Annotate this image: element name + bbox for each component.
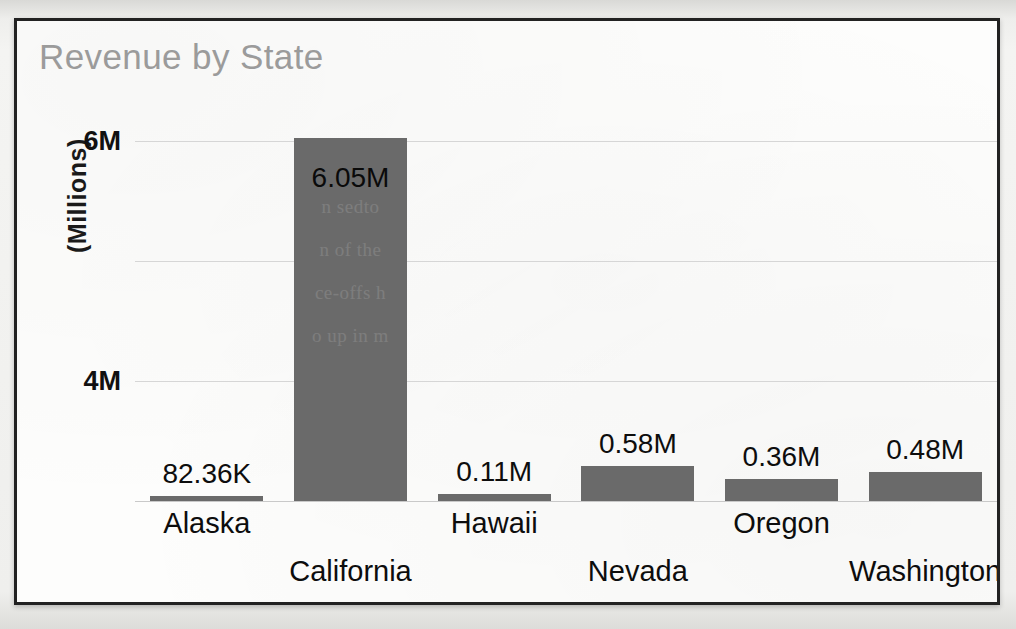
bleed-through-text: o up in m <box>294 325 407 347</box>
x-axis-label-oregon: Oregon <box>733 507 830 540</box>
x-axis-labels-group: AlaskaCaliforniaHawaiiNevadaOregonWashin… <box>135 503 997 603</box>
bar-washington[interactable] <box>869 472 982 501</box>
bar-value-label: 0.11M <box>456 456 532 488</box>
bleed-through-text: n of the <box>294 239 407 261</box>
scanned-chart-page: Revenue by State (Millions) 0M2M4M6M 82.… <box>0 0 1016 629</box>
bar-alaska[interactable] <box>150 496 263 501</box>
chart-frame: Revenue by State (Millions) 0M2M4M6M 82.… <box>14 18 1000 605</box>
gridline-0M: 0M <box>135 501 997 502</box>
bar-value-label: 82.36K <box>162 458 251 490</box>
bar-value-label: 6.05M <box>312 162 390 194</box>
bar-slot: 82.36K <box>150 141 263 501</box>
bar-hawaii[interactable] <box>438 494 551 501</box>
x-axis-label-alaska: Alaska <box>163 507 250 540</box>
bar-value-label: 0.48M <box>886 434 964 466</box>
bar-slot: n sedton of thece-offs ho up in m6.05M <box>294 141 407 501</box>
bar-value-label: 0.58M <box>599 428 677 460</box>
bar-oregon[interactable] <box>725 479 838 501</box>
plot-area: 0M2M4M6M 82.36Kn sedton of thece-offs ho… <box>135 141 997 501</box>
chart-title: Revenue by State <box>39 37 324 77</box>
bar-slot: 0.48M <box>869 141 982 501</box>
y-axis-tick-label: 6M <box>83 126 121 157</box>
x-axis-label-california: California <box>289 555 412 588</box>
bars-group: 82.36Kn sedton of thece-offs ho up in m6… <box>135 141 997 501</box>
bar-value-label: 0.36M <box>743 441 821 473</box>
bar-slot: 0.11M <box>438 141 551 501</box>
x-axis-label-washington: Washington <box>849 555 1000 588</box>
bleed-through-text: n sedto <box>294 196 407 218</box>
y-axis-tick-label: 4M <box>83 366 121 397</box>
x-axis-label-nevada: Nevada <box>588 555 688 588</box>
bar-nevada[interactable] <box>581 466 694 501</box>
bar-slot: 0.58M <box>581 141 694 501</box>
bleed-through-text: ce-offs h <box>294 282 407 304</box>
bar-slot: 0.36M <box>725 141 838 501</box>
x-axis-label-hawaii: Hawaii <box>451 507 538 540</box>
